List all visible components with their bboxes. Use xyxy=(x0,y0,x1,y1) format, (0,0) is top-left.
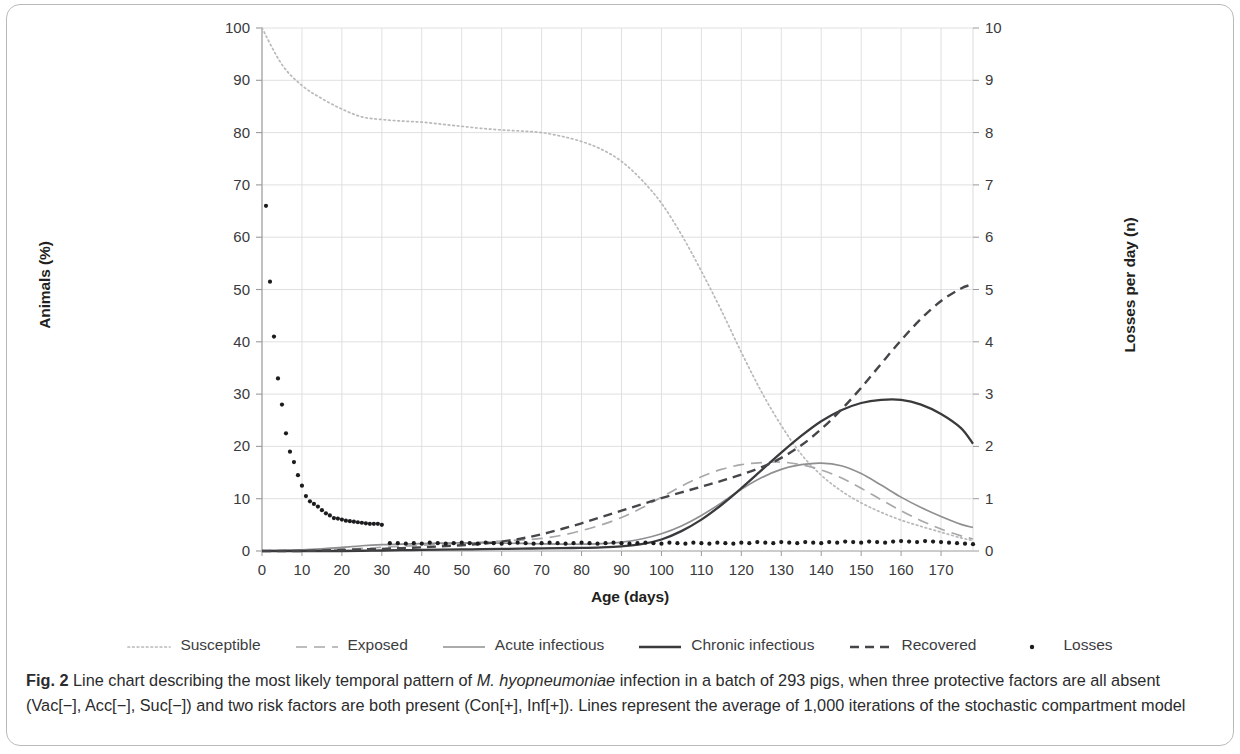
caption-figure-label: Fig. 2 xyxy=(26,671,73,689)
y-right-tick-2: 2 xyxy=(985,437,1031,454)
y-left-tick-90: 90 xyxy=(204,71,250,88)
y-right-tick-3: 3 xyxy=(985,385,1031,402)
legend-swatch-icon xyxy=(1010,639,1054,651)
legend-item-losses[interactable]: Losses xyxy=(1010,636,1112,654)
legend-swatch-icon xyxy=(127,639,171,651)
legend-label: Acute infectious xyxy=(495,636,604,654)
legend-label: Chronic infectious xyxy=(691,636,814,654)
y-left-tick-0: 0 xyxy=(204,542,250,559)
legend-label: Recovered xyxy=(902,636,977,654)
legend-swatch-icon xyxy=(849,639,893,651)
caption-species-name: M. hyopneumoniae xyxy=(477,671,615,689)
figure-caption: Fig. 2 Line chart describing the most li… xyxy=(26,668,1212,717)
chart-area: Animals (%) Losses per day (n) Age (days… xyxy=(0,0,1240,618)
legend-swatch-icon xyxy=(295,639,339,651)
legend-swatch-icon xyxy=(638,639,682,651)
x-axis-title: Age (days) xyxy=(520,588,740,606)
y-right-tick-5: 5 xyxy=(985,281,1031,298)
y-left-tick-60: 60 xyxy=(204,228,250,245)
y-right-tick-4: 4 xyxy=(985,333,1031,350)
legend-label: Losses xyxy=(1063,636,1112,654)
legend-item-recovered[interactable]: Recovered xyxy=(849,636,977,654)
legend-item-exposed[interactable]: Exposed xyxy=(295,636,408,654)
legend-label: Exposed xyxy=(348,636,408,654)
y-axis-left-title: Animals (%) xyxy=(36,205,54,365)
y-left-tick-40: 40 xyxy=(204,333,250,350)
chart-legend: SusceptibleExposedAcute infectiousChroni… xyxy=(0,630,1240,660)
y-left-tick-20: 20 xyxy=(204,437,250,454)
legend-item-susceptible[interactable]: Susceptible xyxy=(127,636,260,654)
legend-item-acute-infectious[interactable]: Acute infectious xyxy=(442,636,604,654)
legend-label: Susceptible xyxy=(180,636,260,654)
y-right-tick-9: 9 xyxy=(985,71,1031,88)
y-left-tick-30: 30 xyxy=(204,385,250,402)
y-right-tick-0: 0 xyxy=(985,542,1031,559)
legend-swatch-icon xyxy=(442,639,486,651)
figure-container: Animals (%) Losses per day (n) Age (days… xyxy=(0,0,1240,754)
y-axis-right-title: Losses per day (n) xyxy=(1121,195,1139,375)
legend-item-chronic-infectious[interactable]: Chronic infectious xyxy=(638,636,814,654)
line-chart-plot xyxy=(0,0,1240,618)
y-right-tick-1: 1 xyxy=(985,490,1031,507)
y-left-tick-50: 50 xyxy=(204,281,250,298)
caption-text: Line chart describing the most likely te… xyxy=(73,671,477,689)
y-right-tick-6: 6 xyxy=(985,228,1031,245)
y-left-tick-80: 80 xyxy=(204,124,250,141)
x-tick-170: 170 xyxy=(918,561,964,578)
y-left-tick-10: 10 xyxy=(204,490,250,507)
y-right-tick-8: 8 xyxy=(985,124,1031,141)
y-right-tick-7: 7 xyxy=(985,176,1031,193)
y-left-tick-100: 100 xyxy=(204,19,250,36)
y-right-tick-10: 10 xyxy=(985,19,1031,36)
y-left-tick-70: 70 xyxy=(204,176,250,193)
